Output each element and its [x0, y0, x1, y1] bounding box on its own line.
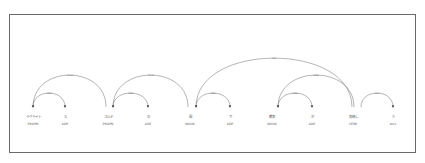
arrowhead-icon	[311, 106, 314, 108]
arrowhead-icon	[32, 106, 35, 108]
tokens-layer: ラグライトPROPNとADPコルテPROPNのADP間NOUNでADP戦争NOU…	[26, 114, 397, 126]
token-word: 勃発し	[349, 114, 359, 119]
token-tag: ADP	[227, 122, 234, 126]
arrowhead-icon	[147, 106, 150, 108]
dependency-arc: obl	[195, 57, 352, 108]
arc-label: case	[128, 92, 134, 95]
arrowhead-icon	[195, 106, 198, 108]
arc-path	[33, 93, 65, 107]
token-word: ラグライト	[26, 114, 41, 119]
token-tag: ADP	[309, 122, 316, 126]
arrowhead-icon	[392, 106, 395, 108]
arrowhead-icon	[64, 106, 67, 108]
dependency-arc: nmod	[112, 74, 188, 108]
dependency-arc: nmod	[32, 74, 106, 108]
arc-path	[196, 58, 352, 107]
dependency-arc: nsubj	[277, 74, 354, 108]
arc-label: case	[292, 92, 298, 95]
arc-label: case	[46, 92, 52, 95]
token-tag: AUX	[390, 122, 397, 126]
token: でADP	[227, 115, 234, 126]
dependency-arc: case	[196, 92, 231, 108]
token-word: た	[392, 114, 396, 119]
token: コルテPROPN	[103, 114, 114, 126]
arc-label: nsubj	[313, 74, 319, 77]
dependency-arc: case	[278, 92, 313, 108]
dependency-arc: aux	[361, 92, 394, 108]
arrowhead-icon	[277, 106, 280, 108]
arc-path	[278, 93, 312, 107]
arc-label: nmod	[66, 74, 73, 77]
token-word: 間	[189, 114, 193, 119]
dependency-arc: case	[113, 92, 149, 108]
arc-label: obl	[272, 57, 276, 60]
token-word: の	[147, 115, 151, 119]
dependency-arc: case	[33, 92, 66, 108]
dependency-diagram: casenmodcasenmodcaseoblcasensubjaux ラグライ…	[0, 0, 425, 163]
token-tag: PROPN	[28, 122, 39, 126]
arc-path	[361, 93, 393, 107]
token-tag: ADP	[145, 122, 152, 126]
arcs-layer: casenmodcasenmodcaseoblcasensubjaux	[32, 57, 395, 108]
token: のADP	[145, 115, 152, 126]
token: たAUX	[390, 114, 397, 126]
token-tag: VERB	[349, 122, 358, 126]
token-word: 戦争	[269, 114, 276, 119]
arrowhead-icon	[112, 106, 115, 108]
arc-label: case	[210, 92, 216, 95]
token-word: と	[64, 114, 67, 119]
token: とADP	[62, 114, 69, 126]
arc-path	[33, 75, 106, 107]
arc-label: aux	[375, 92, 380, 95]
token-word: コルテ	[104, 114, 114, 119]
arc-path	[196, 93, 230, 107]
arc-path	[278, 75, 354, 107]
token: 戦争NOUN	[267, 114, 276, 126]
token-tag: NOUN	[267, 122, 276, 126]
token: がADP	[309, 114, 316, 126]
arc-label: nmod	[147, 74, 154, 77]
token-word: で	[229, 115, 233, 119]
arrowhead-icon	[229, 106, 232, 108]
arc-path	[113, 93, 148, 107]
token: 間NOUN	[185, 114, 194, 126]
token: 勃発しVERB	[349, 114, 359, 126]
token: ラグライトPROPN	[26, 114, 41, 126]
arc-path	[113, 75, 188, 107]
token-tag: NOUN	[185, 122, 194, 126]
token-tag: PROPN	[103, 122, 114, 126]
token-word: が	[311, 114, 315, 119]
token-tag: ADP	[62, 122, 69, 126]
